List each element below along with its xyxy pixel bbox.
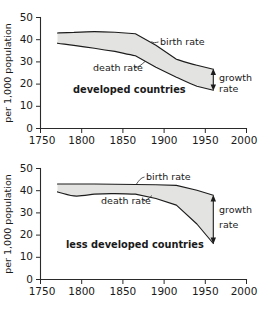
growth-band-less-developed [58, 184, 214, 244]
death-rate-label-developed: death rate [93, 62, 143, 73]
ytick-label-0-less-developed: 0 [26, 273, 33, 285]
rate-label-less-developed: rate [219, 219, 238, 230]
ytick-label-20-less-developed: 20 [20, 228, 33, 240]
y-axis-title-less-developed: per 1,000 population [2, 174, 13, 274]
xtick-label-1750-less-developed: 1750 [29, 285, 56, 297]
y-axis-title-developed: per 1,000 population [2, 23, 13, 123]
panel-title-less-developed: less developed countries [66, 239, 204, 250]
ytick-label-40-less-developed: 40 [20, 184, 33, 196]
xtick-label-1850-developed: 1850 [110, 134, 137, 146]
xtick-label-1950-less-developed: 1950 [192, 285, 219, 297]
xtick-label-1900-less-developed: 1900 [151, 285, 178, 297]
y-ticks-less-developed [36, 169, 41, 280]
xtick-label-2000-less-developed: 2000 [231, 285, 258, 297]
x-ticks-developed [41, 129, 247, 134]
ytick-label-30-developed: 30 [20, 55, 33, 67]
panel-less-developed-countries: 0 10 20 30 40 50 1750 1800 1850 1900 195… [2, 162, 257, 297]
xtick-label-1950-developed: 1950 [192, 134, 219, 146]
xtick-label-1900-developed: 1900 [151, 134, 178, 146]
xtick-label-1800-less-developed: 1800 [68, 285, 95, 297]
ytick-label-50-less-developed: 50 [20, 162, 33, 174]
ytick-label-20-developed: 20 [20, 77, 33, 89]
panel-title-developed: developed countries [73, 84, 186, 95]
ytick-label-10-less-developed: 10 [20, 250, 33, 262]
ytick-label-0-developed: 0 [26, 122, 33, 134]
y-ticks-developed [36, 18, 41, 129]
birth-rate-leader-developed [152, 42, 159, 43]
panel-developed-countries: 0 10 20 30 40 50 1750 1800 1850 1900 195… [2, 11, 257, 146]
xtick-label-1750-developed: 1750 [29, 134, 56, 146]
chart-canvas: 0 10 20 30 40 50 1750 1800 1850 1900 195… [0, 0, 275, 309]
xtick-label-1800-developed: 1800 [68, 134, 95, 146]
birth-rate-label-developed: birth rate [160, 36, 205, 47]
ytick-label-50-developed: 50 [20, 11, 33, 23]
ytick-label-40-developed: 40 [20, 33, 33, 45]
x-ticks-less-developed [41, 280, 247, 285]
ytick-label-10-developed: 10 [20, 99, 33, 111]
birth-rate-leader-less-developed [137, 177, 145, 184]
growth-label-developed: growth [219, 72, 252, 83]
rate-label-developed: rate [219, 83, 238, 94]
growth-label-less-developed: growth [219, 204, 252, 215]
demographic-transition-figure: 0 10 20 30 40 50 1750 1800 1850 1900 195… [0, 0, 275, 309]
xtick-label-2000-developed: 2000 [231, 134, 258, 146]
death-rate-label-less-developed: death rate [101, 195, 151, 206]
ytick-label-30-less-developed: 30 [20, 206, 33, 218]
xtick-label-1850-less-developed: 1850 [110, 285, 137, 297]
birth-rate-label-less-developed: birth rate [146, 171, 191, 182]
